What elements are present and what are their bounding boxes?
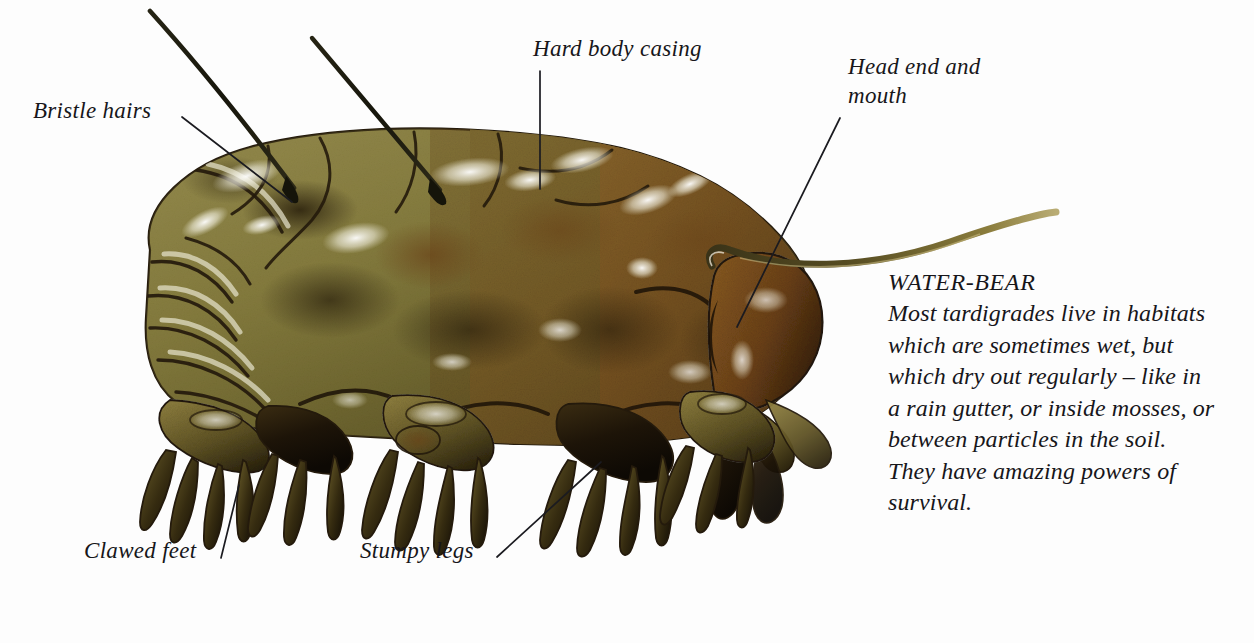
head-snout: [709, 253, 823, 412]
blotch: [260, 262, 400, 338]
highlight: [744, 287, 788, 313]
label-stumpy-legs: Stumpy legs: [360, 536, 474, 565]
blotch: [392, 290, 548, 370]
highlight: [730, 340, 754, 380]
leg-front-dark: [540, 403, 673, 556]
blotch: [500, 196, 620, 264]
label-clawed-feet: Clawed feet: [84, 536, 197, 565]
caption-block: WATER-BEAR Most tardigrades live in habi…: [888, 267, 1218, 519]
caption-body: Most tardigrades live in habitats which …: [888, 298, 1218, 519]
caption-title: WATER-BEAR: [888, 267, 1218, 298]
leg-rear-dark: [248, 406, 352, 545]
figure-page: Bristle hairs Hard body casing Head end …: [0, 0, 1254, 643]
label-head-end-and-mouth: Head end and mouth: [848, 52, 981, 110]
label-hard-body-casing: Hard body casing: [533, 34, 702, 63]
blotch: [375, 221, 485, 289]
label-bristle-hairs: Bristle hairs: [33, 96, 151, 125]
